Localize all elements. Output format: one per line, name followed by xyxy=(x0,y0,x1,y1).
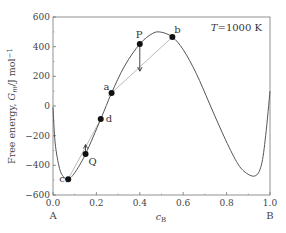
x-tick-label: 0.0 xyxy=(46,198,61,208)
x-tick-label: 0.6 xyxy=(176,198,191,208)
tangent-line-cd xyxy=(66,118,101,182)
x-tick-label: 0.4 xyxy=(133,198,148,208)
point-label-d: d xyxy=(106,113,113,124)
x-tick-label: 1.0 xyxy=(263,198,278,208)
point-d xyxy=(98,116,104,122)
x-end-label-a: A xyxy=(48,210,57,221)
y-tick-label: −200 xyxy=(25,131,50,141)
point-label-P: P xyxy=(136,29,143,40)
arrows xyxy=(83,44,142,154)
y-tick-label: 600 xyxy=(33,12,50,22)
point-c xyxy=(65,176,71,182)
y-tick-label: 400 xyxy=(33,42,50,52)
point-label-a: a xyxy=(104,81,110,92)
temperature-annotation: T=1000 K xyxy=(211,22,263,33)
y-tick-label: −400 xyxy=(25,160,50,170)
x-tick-label: 0.8 xyxy=(219,198,234,208)
x-axis-label: cB xyxy=(156,211,166,224)
point-label-c: c xyxy=(59,173,65,184)
point-label-b: b xyxy=(174,24,180,35)
point-P xyxy=(137,41,143,47)
y-tick-label: 200 xyxy=(33,71,50,81)
x-end-label-b: B xyxy=(266,210,273,221)
y-tick-label: 0 xyxy=(44,101,50,111)
plot-frame xyxy=(53,17,270,195)
data-points: cQdaPb xyxy=(59,24,181,184)
y-axis-ticks: 6004002000−200−400−600 xyxy=(25,12,56,200)
free-energy-chart: 6004002000−200−400−600 0.00.20.40.60.81.… xyxy=(0,0,286,233)
x-axis-ticks: 0.00.20.40.60.81.0 xyxy=(46,192,278,208)
free-energy-curve xyxy=(53,32,270,180)
x-tick-label: 0.2 xyxy=(89,198,103,208)
point-label-Q: Q xyxy=(89,156,97,167)
y-axis-label: Free energy, Gm/J mol−1 xyxy=(6,48,19,164)
